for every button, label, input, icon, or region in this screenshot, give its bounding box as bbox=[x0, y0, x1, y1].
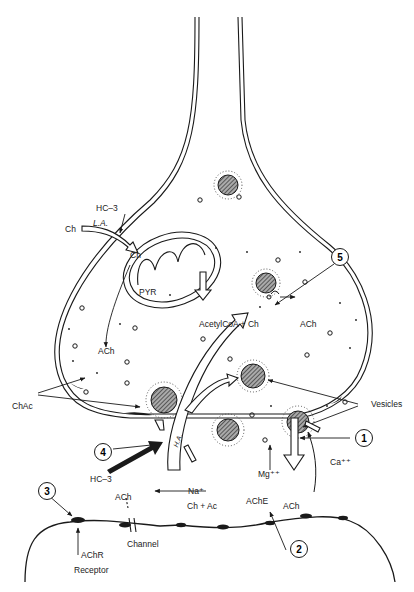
transport-arrows bbox=[82, 226, 320, 470]
label-achr: AChR bbox=[81, 551, 104, 560]
label-reaction-right: ACh bbox=[300, 320, 317, 329]
label-receptor: Receptor bbox=[74, 566, 109, 575]
reuptake-arrow bbox=[308, 432, 316, 492]
label-na: Na⁺ bbox=[188, 487, 204, 496]
label-hc3-top: HC–3 bbox=[96, 204, 118, 213]
mitochondrion bbox=[113, 219, 232, 321]
callout-2-pointer bbox=[270, 512, 286, 550]
label-channel: Channel bbox=[127, 540, 159, 549]
label-ache: AChE bbox=[246, 497, 268, 506]
label-vesicles: Vesicles bbox=[371, 400, 402, 409]
label-ca: Ca⁺⁺ bbox=[330, 458, 351, 467]
label-pyr: PYR bbox=[139, 288, 156, 297]
vesicles bbox=[146, 171, 314, 446]
callout-1: 1 bbox=[355, 429, 373, 447]
ch-to-ach-arrow bbox=[106, 265, 130, 347]
label-ch-inside: Ch bbox=[130, 251, 141, 260]
chac-pointer-1 bbox=[38, 378, 85, 393]
callout-5: 5 bbox=[331, 248, 349, 266]
callout-4: 4 bbox=[94, 443, 112, 461]
label-ach-released: ACh bbox=[283, 502, 300, 511]
callout-5-pointer bbox=[275, 264, 334, 305]
label-ach-left: ACh bbox=[98, 347, 115, 356]
callout-3: 3 bbox=[38, 482, 56, 500]
label-hc3-bottom: HC–3 bbox=[90, 475, 112, 484]
label-chac: ChAc bbox=[12, 402, 33, 411]
label-reaction-left: AcetylCoA + Ch bbox=[199, 320, 259, 329]
label-ach-channel: ACh bbox=[115, 493, 132, 502]
label-ch-outside: Ch bbox=[65, 225, 76, 234]
label-la: L.A. bbox=[93, 219, 108, 228]
callout-2: 2 bbox=[290, 540, 308, 558]
label-mg: Mg⁺⁺ bbox=[258, 470, 280, 479]
hc3-block-arrow bbox=[107, 441, 163, 474]
label-ch-plus-ac: Ch + Ac bbox=[187, 502, 217, 511]
